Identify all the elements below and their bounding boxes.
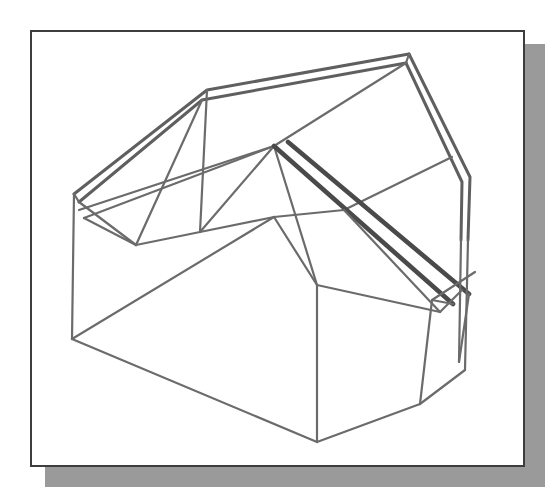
wireframe-edges-group: [72, 54, 475, 442]
edge-mid-right-diagonal: [344, 210, 440, 312]
edge-flap-notch-right: [136, 232, 200, 245]
edge-mid-band-upper: [274, 210, 344, 217]
edge-right-bottom-cap: [420, 370, 465, 404]
edge-lower-left-fold: [72, 217, 274, 339]
edge-center-spur: [317, 285, 440, 312]
edge-lower-center-fold: [274, 217, 317, 285]
figure-frame: [30, 30, 525, 467]
wireframe-drawing: [32, 32, 527, 469]
edge-right-wall-vertical: [420, 300, 432, 404]
edge-right-peak-inner: [406, 63, 462, 240]
edge-left-wall-top: [72, 194, 74, 339]
edge-left-notch-drop: [84, 218, 136, 245]
figure-stage: Wireframe polyhedron line drawing Monoch…: [0, 0, 557, 500]
edge-thick-diagonal-inner: [288, 142, 469, 294]
edge-left-wall-bottom: [72, 339, 317, 442]
edge-flap-left-strut-2: [200, 90, 207, 232]
edge-center-ridge-left-2: [84, 146, 274, 218]
edge-upper-flap-outer-ridge: [74, 54, 409, 194]
edge-lower-right-fold: [317, 404, 420, 442]
